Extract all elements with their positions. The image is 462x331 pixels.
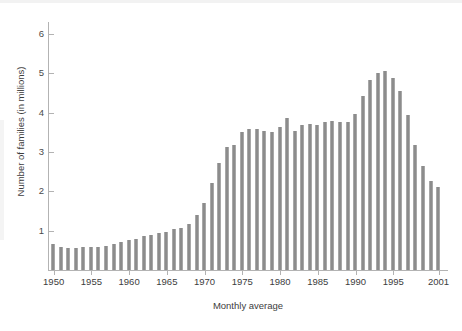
bar — [142, 236, 146, 270]
bar — [119, 242, 123, 270]
x-tick-mark — [129, 271, 130, 275]
y-tick-label-text: 1 — [24, 226, 44, 236]
bar — [127, 240, 131, 270]
x-tick-mark — [167, 271, 168, 275]
bar — [383, 71, 387, 270]
x-tick-mark — [242, 271, 243, 275]
bar — [81, 247, 85, 270]
bar — [195, 215, 199, 271]
y-tick-label-text: 2 — [24, 186, 44, 196]
bar — [210, 183, 214, 270]
bar — [149, 235, 153, 270]
y-tick-label: 3 — [22, 147, 44, 157]
y-tick-label-text: 6 — [24, 29, 44, 39]
bar — [202, 203, 206, 270]
bar — [293, 131, 297, 270]
y-axis-title-holder: Number of families (in millions) — [0, 22, 16, 270]
bar — [66, 248, 70, 270]
bar — [368, 80, 372, 270]
bar — [187, 224, 191, 270]
x-tick-mark — [91, 271, 92, 275]
bar — [157, 233, 161, 270]
bar — [172, 229, 176, 270]
bar — [376, 73, 380, 270]
y-tick-label-text: 3 — [24, 147, 44, 157]
chart-figure: Number of families (in millions) 123456 … — [0, 0, 462, 331]
bar — [346, 122, 350, 270]
bar — [300, 125, 304, 270]
y-tick-label-text: 4 — [24, 108, 44, 118]
bar — [104, 246, 108, 270]
bar — [338, 122, 342, 270]
x-tick-mark — [205, 271, 206, 275]
x-tick-label: 1995 — [370, 277, 416, 287]
bar — [74, 248, 78, 270]
bar — [353, 114, 357, 270]
x-tick-mark — [439, 271, 440, 275]
x-tick-mark — [356, 271, 357, 275]
bar — [323, 122, 327, 270]
bar — [361, 96, 365, 270]
bar — [262, 131, 266, 270]
bar — [278, 127, 282, 270]
bar — [270, 132, 274, 270]
y-tick-label: 4 — [22, 108, 44, 118]
scan-artifact-top — [0, 0, 462, 3]
bar — [179, 228, 183, 271]
y-tick-label-text: 5 — [24, 68, 44, 78]
bar — [315, 125, 319, 270]
bar — [96, 247, 100, 270]
bar — [308, 124, 312, 270]
x-axis-title: Monthly average — [48, 300, 448, 311]
bar — [255, 129, 259, 270]
bar — [232, 145, 236, 270]
bar — [225, 147, 229, 270]
bar — [285, 118, 289, 270]
bar — [429, 181, 433, 270]
bar — [436, 187, 440, 270]
bar — [330, 121, 334, 270]
x-tick-mark — [54, 271, 55, 275]
y-tick-label: 5 — [22, 68, 44, 78]
bar — [59, 247, 63, 270]
y-tick-label: 2 — [22, 186, 44, 196]
x-tick-label: 2001 — [416, 277, 462, 287]
x-tick-mark — [393, 271, 394, 275]
bar — [217, 163, 221, 270]
bar — [413, 145, 417, 270]
bar — [51, 244, 55, 270]
bar — [134, 239, 138, 270]
x-axis-line — [48, 270, 448, 271]
bar — [406, 115, 410, 270]
bar — [421, 166, 425, 270]
bar — [240, 132, 244, 270]
x-tick-mark — [280, 271, 281, 275]
bar — [164, 232, 168, 270]
x-tick-mark — [318, 271, 319, 275]
bar — [391, 78, 395, 270]
bar — [247, 129, 251, 270]
plot-area — [48, 22, 448, 270]
bar — [112, 244, 116, 270]
y-tick-label: 1 — [22, 226, 44, 236]
bar — [89, 247, 93, 270]
y-tick-label: 6 — [22, 29, 44, 39]
bar — [398, 91, 402, 270]
